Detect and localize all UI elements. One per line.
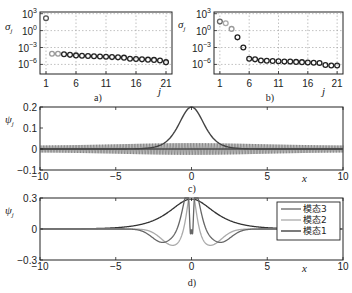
panel-a-ylabel: σj xyxy=(5,20,12,35)
x-tick-label: 11 xyxy=(273,78,284,89)
panel-b-caption: b) xyxy=(266,92,274,104)
x-tick-label: 11 xyxy=(101,78,112,89)
y-tick-label: 10−3 xyxy=(192,41,211,54)
y-tick-label: 0.2 xyxy=(23,102,37,113)
y-tick-label: 100 xyxy=(196,24,211,37)
y-tick-label: 10−6 xyxy=(192,57,211,70)
x-tick-label: −5 xyxy=(110,261,122,272)
panel-d-ylabel: ψj xyxy=(5,204,14,219)
x-tick-label: 0 xyxy=(189,261,195,272)
x-tick-label: 1 xyxy=(43,78,49,89)
x-tick-label: 6 xyxy=(73,78,79,89)
y-tick-label: 103 xyxy=(22,7,37,20)
y-tick-label: 0 xyxy=(31,224,37,235)
x-tick-label: 21 xyxy=(332,78,344,89)
panel-d-caption: d) xyxy=(188,277,196,289)
legend-label-mode2: 模态2 xyxy=(303,214,327,225)
panel-c-ylabel: ψj xyxy=(5,113,14,128)
y-tick-label: 0.1 xyxy=(23,123,37,134)
y-tick-label: −0.1 xyxy=(17,165,37,176)
panel-b-xlabel: j xyxy=(320,85,325,97)
panel-b-ylabel: σj xyxy=(178,18,185,33)
y-tick-label: 100 xyxy=(22,24,37,37)
x-tick-label: −5 xyxy=(110,171,122,182)
panel-c-caption: c) xyxy=(188,183,196,195)
legend-label-mode1: 模态1 xyxy=(303,225,327,236)
x-tick-label: 1 xyxy=(217,78,223,89)
y-tick-label: 103 xyxy=(196,7,211,20)
y-tick-label: 0.3 xyxy=(23,193,37,204)
panel-c: −10−505100.20.10−0.1 ψj x c) xyxy=(5,102,349,195)
x-tick-label: 16 xyxy=(302,78,314,89)
x-tick-label: 10 xyxy=(337,171,349,182)
x-tick-label: 10 xyxy=(337,261,349,272)
panel-d: −10−505100.30−0.3 模态3 模态2 模态1 ψj x d) xyxy=(5,193,349,289)
panel-c-axes-box xyxy=(40,107,343,170)
x-tick-label: 16 xyxy=(130,78,142,89)
x-tick-label: 5 xyxy=(264,261,270,272)
x-tick-label: 6 xyxy=(246,78,252,89)
panel-a-caption: a) xyxy=(94,92,102,104)
y-tick-label: 0 xyxy=(31,144,37,155)
figure-canvas: 1611162110310010−310−6 σj j a) 161116211… xyxy=(0,0,352,293)
x-tick-label: 5 xyxy=(264,171,270,182)
x-tick-label: 21 xyxy=(160,78,172,89)
y-tick-label: 10−6 xyxy=(18,57,37,70)
panel-a: 1611162110310010−310−6 σj j a) xyxy=(5,7,172,104)
panel-b: 1611162110310010−310−6 σj j b) xyxy=(178,7,343,104)
x-tick-label: 0 xyxy=(189,171,195,182)
y-tick-label: −0.3 xyxy=(17,255,37,266)
panel-d-legend: 模态3 模态2 模态1 xyxy=(277,202,340,240)
panel-d-xlabel: x xyxy=(301,262,307,274)
y-tick-label: 10−3 xyxy=(18,41,37,54)
panel-a-xlabel: j xyxy=(156,85,161,97)
panel-c-xlabel: x xyxy=(301,172,307,184)
legend-label-mode3: 模态3 xyxy=(303,203,327,214)
